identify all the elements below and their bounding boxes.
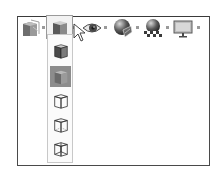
dropdown-item-wireframe[interactable] bbox=[50, 138, 71, 159]
dropdown-item-shaded-with-edges[interactable] bbox=[50, 40, 71, 61]
view-settings-button[interactable] bbox=[173, 17, 193, 39]
hidden-lines-removed-cube-icon bbox=[52, 92, 70, 110]
edit-appearance-button[interactable] bbox=[113, 17, 133, 39]
display-style-dropdown-arrow[interactable] bbox=[42, 26, 45, 29]
apply-scene-dropdown-arrow[interactable] bbox=[166, 26, 169, 29]
apply-scene-button[interactable] bbox=[143, 17, 163, 39]
dropdown-item-shaded[interactable] bbox=[50, 66, 71, 87]
view-settings-dropdown-arrow[interactable] bbox=[197, 26, 200, 29]
display-style-button[interactable] bbox=[21, 17, 41, 39]
shaded-cube-icon bbox=[52, 68, 70, 86]
monitor-icon bbox=[173, 18, 193, 38]
hide-show-dropdown-arrow[interactable] bbox=[104, 26, 107, 29]
scene-sphere-icon bbox=[143, 18, 163, 38]
section-cube-icon bbox=[21, 18, 41, 38]
appearance-sphere-icon bbox=[113, 18, 133, 38]
mouse-pointer-icon bbox=[73, 23, 89, 43]
wireframe-cube-icon bbox=[52, 140, 70, 158]
hidden-lines-visible-cube-icon bbox=[52, 116, 70, 134]
display-mode-dropdown bbox=[47, 34, 73, 163]
edit-appearance-dropdown-arrow[interactable] bbox=[136, 26, 139, 29]
shaded-edges-cube-icon bbox=[52, 42, 70, 60]
dropdown-item-hidden-lines-removed[interactable] bbox=[50, 90, 71, 111]
dropdown-item-hidden-lines-visible[interactable] bbox=[50, 114, 71, 135]
